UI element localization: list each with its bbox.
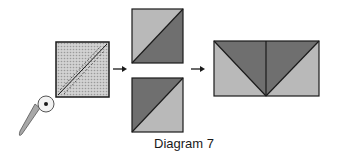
- arrow-right-icon: [113, 66, 127, 72]
- half-square-triangle-bottom: [132, 78, 183, 132]
- diagram-caption: Diagram 7: [150, 136, 218, 151]
- arrow-right-icon: [191, 66, 205, 72]
- half-square-triangle-top: [132, 9, 183, 63]
- rotary-cutter-icon: [19, 96, 54, 135]
- flying-geese-unit: [214, 41, 319, 96]
- layered-fabric-square: [56, 42, 109, 97]
